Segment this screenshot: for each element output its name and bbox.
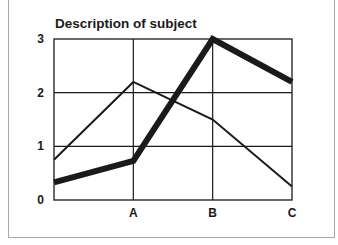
- x-axis-ticks: ABC: [129, 206, 297, 220]
- line-chart: 0123 ABC: [0, 0, 338, 245]
- y-tick-label: 3: [37, 32, 44, 46]
- y-axis-ticks: 0123: [37, 32, 44, 207]
- y-tick-label: 1: [37, 139, 44, 153]
- x-tick-label: A: [129, 206, 138, 220]
- x-tick-label: B: [208, 206, 217, 220]
- data-series: [54, 39, 292, 187]
- x-tick-label: C: [288, 206, 297, 220]
- series-line: [54, 39, 292, 182]
- y-tick-label: 0: [37, 193, 44, 207]
- y-tick-label: 2: [37, 86, 44, 100]
